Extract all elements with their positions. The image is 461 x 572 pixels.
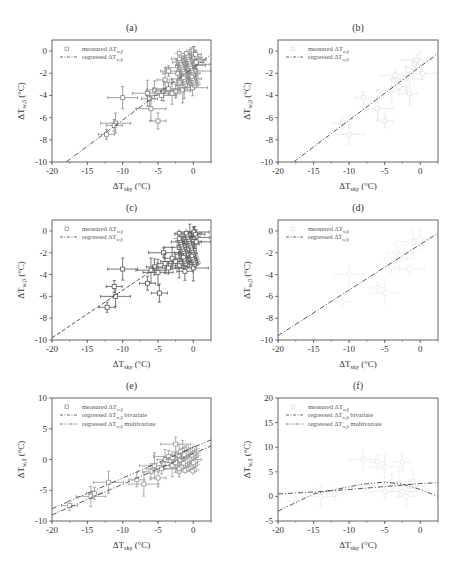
- panel-c: (c)-20-15-10-500-2-4-6-8-10ΔTsky (°C)ΔTw…: [16, 202, 211, 370]
- legend: measured ΔTw,βregressed ΔTw,β: [60, 225, 124, 243]
- y-tick-label: 0: [269, 491, 274, 501]
- x-tick-label: 0: [418, 166, 423, 176]
- x-tick-label: -5: [154, 166, 162, 176]
- x-tick-label: -15: [81, 166, 93, 176]
- y-tick-label: -8: [40, 313, 48, 323]
- y-axis-title: ΔTw,β (°C): [242, 82, 253, 120]
- x-axis-title: ΔTsky (°C): [113, 540, 151, 551]
- x-axis-title: ΔTsky (°C): [113, 181, 151, 192]
- x-tick-label: -20: [272, 525, 284, 535]
- x-tick-label: -20: [272, 166, 284, 176]
- y-tick-label: -6: [40, 291, 48, 301]
- legend: measured ΔTw,βregressed ΔTw,β: [60, 45, 124, 63]
- y-tick-label: -10: [35, 157, 47, 167]
- y-tick-label: 5: [269, 467, 274, 477]
- y-tick-label: -2: [266, 248, 274, 258]
- svg-text:regressed ΔTw,β: regressed ΔTw,β: [82, 233, 123, 243]
- x-tick-label: -20: [272, 344, 284, 354]
- panel-e: (e)-20-15-10-501050-5-10ΔTsky (°C)ΔTw,β …: [16, 380, 211, 551]
- y-tick-label: -6: [266, 291, 274, 301]
- x-tick-label: 0: [418, 344, 423, 354]
- x-tick-label: -15: [81, 525, 93, 535]
- x-tick-label: -10: [117, 344, 129, 354]
- plot-frame: [278, 220, 438, 340]
- svg-text:regressed ΔTw,β multivariate: regressed ΔTw,β multivariate: [308, 420, 382, 430]
- data-points: [62, 437, 202, 511]
- x-tick-label: 0: [418, 525, 423, 535]
- x-axis-title: ΔTsky (°C): [339, 181, 377, 192]
- svg-text:regressed ΔTw,β: regressed ΔTw,β: [308, 233, 349, 243]
- y-tick-label: -2: [40, 68, 48, 78]
- y-axis-title: ΔTw,β (°C): [16, 261, 27, 299]
- panel-f: (f)-20-15-10-5020151050-5ΔTsky (°C)ΔTw,β…: [242, 380, 438, 551]
- y-tick-label: 0: [43, 226, 48, 236]
- x-tick-label: -20: [46, 344, 58, 354]
- regression-line: [66, 54, 211, 162]
- panel-d: (d)-20-15-10-500-2-4-6-8-10ΔTsky (°C)ΔTw…: [242, 202, 438, 370]
- x-tick-label: -5: [381, 166, 389, 176]
- y-tick-label: 0: [43, 455, 48, 465]
- y-tick-label: -10: [35, 335, 47, 345]
- svg-text:regressed ΔTw,β: regressed ΔTw,β: [308, 53, 349, 63]
- x-tick-label: -10: [343, 525, 355, 535]
- x-tick-label: -10: [117, 166, 129, 176]
- x-axis-title: ΔTsky (°C): [339, 359, 377, 370]
- y-tick-label: -2: [40, 248, 48, 258]
- legend: measured ΔTw,βregressed ΔTw,β: [286, 225, 350, 243]
- y-axis-title: ΔTw,β (°C): [242, 261, 253, 299]
- y-tick-label: -6: [40, 113, 48, 123]
- x-tick-label: -10: [117, 525, 129, 535]
- x-tick-label: 0: [191, 344, 196, 354]
- y-tick-label: -4: [40, 270, 48, 280]
- panel-title: (c): [126, 202, 137, 214]
- regression-multivariate-line: [52, 440, 211, 509]
- y-axis-title: ΔTw,β (°C): [242, 441, 253, 479]
- y-axis-title: ΔTw,β (°C): [16, 441, 27, 479]
- x-tick-label: -5: [381, 344, 389, 354]
- y-tick-label: 10: [264, 442, 274, 452]
- y-tick-label: -10: [35, 516, 47, 526]
- y-tick-label: 20: [264, 393, 274, 403]
- x-axis-title: ΔTsky (°C): [339, 540, 377, 551]
- y-tick-label: -5: [40, 485, 48, 495]
- y-tick-label: -6: [266, 113, 274, 123]
- y-tick-label: -8: [40, 135, 48, 145]
- panel-title: (b): [352, 22, 364, 34]
- svg-text:regressed ΔTw,β multivariate: regressed ΔTw,β multivariate: [82, 420, 156, 430]
- x-tick-label: -15: [81, 344, 93, 354]
- x-tick-label: -5: [154, 525, 162, 535]
- x-tick-label: -15: [308, 525, 320, 535]
- svg-text:regressed ΔTw,β: regressed ΔTw,β: [82, 53, 123, 63]
- x-tick-label: 0: [191, 525, 196, 535]
- x-tick-label: -15: [308, 344, 320, 354]
- y-tick-label: -10: [261, 157, 273, 167]
- figure-canvas: (a)-20-15-10-500-2-4-6-8-10ΔTsky (°C)ΔTw…: [0, 0, 461, 572]
- y-tick-label: -4: [266, 270, 274, 280]
- x-tick-label: -20: [46, 166, 58, 176]
- y-tick-label: 5: [43, 424, 48, 434]
- legend: measured ΔTw,βregressed ΔTw,β bivariater…: [60, 403, 156, 430]
- legend: measured ΔTw,βregressed ΔTw,β bivariater…: [286, 403, 382, 430]
- y-tick-label: -2: [266, 68, 274, 78]
- x-tick-label: 0: [191, 166, 196, 176]
- y-tick-label: 10: [38, 393, 48, 403]
- regression-line: [294, 53, 438, 162]
- panel-b: (b)-20-15-10-500-2-4-6-8-10ΔTsky (°C)ΔTw…: [242, 22, 438, 192]
- x-tick-label: -10: [343, 166, 355, 176]
- x-tick-label: -20: [46, 525, 58, 535]
- x-tick-label: -5: [154, 344, 162, 354]
- y-tick-label: -8: [266, 313, 274, 323]
- panel-title: (d): [352, 202, 364, 214]
- y-tick-label: -4: [266, 90, 274, 100]
- x-tick-label: -10: [343, 344, 355, 354]
- x-axis-title: ΔTsky (°C): [113, 359, 151, 370]
- y-tick-label: 0: [269, 46, 274, 56]
- panel-a: (a)-20-15-10-500-2-4-6-8-10ΔTsky (°C)ΔTw…: [16, 22, 211, 192]
- plot-frame: [278, 40, 438, 162]
- regression-line: [278, 233, 438, 336]
- panel-title: (e): [126, 380, 137, 392]
- y-tick-label: 15: [264, 418, 274, 428]
- panel-title: (a): [126, 22, 137, 34]
- y-tick-label: -10: [261, 335, 273, 345]
- regression-line: [52, 271, 151, 338]
